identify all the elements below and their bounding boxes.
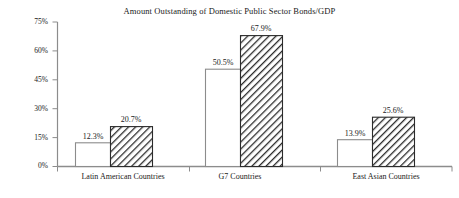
bar-g7-hatched [241,36,283,167]
bar-chart: Amount Outstanding of Domestic Public Se… [0,0,459,198]
y-axis-label-75: 75% [14,17,48,26]
bar-latin-american-open [76,143,111,167]
category-label-latin-american: Latin American Countries [53,172,193,181]
category-label-east-asian: East Asian Countries [316,172,456,181]
bar-g7-open [206,69,241,166]
value-label-latin-hatched: 20.7% [106,115,156,124]
y-axis-label-15: 15% [14,133,48,142]
chart-canvas [0,0,459,198]
value-label-g7-open: 50.5% [198,58,248,67]
bar-east-asian-hatched [373,117,415,166]
value-label-g7-hatched: 67.9% [236,24,286,33]
bar-east-asian-open [338,140,373,167]
plot-area: 75% 60% 45% 30% 15% 0% 12.3% 20.7% 50.5%… [0,0,459,198]
y-axis-label-30: 30% [14,104,48,113]
value-label-east-open: 13.9% [330,129,380,138]
value-label-east-hatched: 25.6% [368,106,418,115]
y-axis-label-45: 45% [14,75,48,84]
category-label-g7: G7 Countries [184,172,296,181]
value-label-latin-open: 12.3% [68,132,118,141]
y-axis-label-0: 0% [14,161,48,170]
y-axis-label-60: 60% [14,46,48,55]
